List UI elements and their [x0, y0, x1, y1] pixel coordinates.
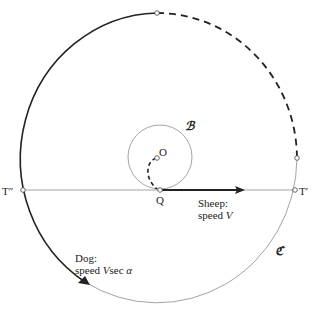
- label-t-double-prime: T″: [2, 185, 13, 197]
- dog-arrowhead-icon: [78, 276, 90, 285]
- sheep-speed-var: V: [226, 209, 233, 221]
- point-top-marker: [155, 11, 160, 16]
- sheep-label-line2: speed V: [198, 209, 233, 221]
- point-t-double-prime-marker: [21, 188, 26, 193]
- dog-label-line2: speed Vsec α: [75, 264, 132, 276]
- sheep-label: Sheep: speed V: [198, 197, 233, 221]
- dog-speed-prefix: speed: [75, 264, 103, 276]
- label-o: O: [159, 146, 167, 158]
- sheep-dashed-curve: [148, 158, 157, 189]
- circle-c-thin-arc: [85, 158, 297, 303]
- label-t-prime: T′: [299, 185, 308, 197]
- label-circle-b: ℬ: [185, 120, 194, 132]
- label-circle-c: ℭ: [275, 245, 283, 257]
- dog-path-dashed-arc: [157, 13, 297, 158]
- dog-speed-angle: α: [126, 264, 132, 276]
- point-q-marker: [158, 188, 163, 193]
- dog-path-solid-arc: [20, 13, 157, 282]
- sheep-speed-prefix: speed: [198, 209, 226, 221]
- point-t-prime-marker: [293, 188, 298, 193]
- dog-speed-sec: sec: [110, 264, 127, 276]
- sheep-label-line1: Sheep:: [198, 197, 233, 209]
- dog-speed-var: V: [103, 264, 110, 276]
- label-q: Q: [156, 194, 164, 206]
- dog-label-line1: Dog:: [75, 252, 132, 264]
- dog-label: Dog: speed Vsec α: [75, 252, 132, 276]
- point-right-marker: [295, 156, 300, 161]
- pursuit-diagram: O Q T″ T′ ℬ ℭ Sheep: speed V Dog: speed …: [0, 0, 317, 311]
